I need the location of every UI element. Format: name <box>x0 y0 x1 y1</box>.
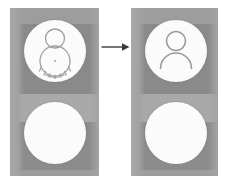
blank-disc[interactable] <box>24 102 86 164</box>
person-avatar-icon[interactable] <box>145 20 207 82</box>
glitched-avatar-icon[interactable] <box>24 20 86 82</box>
panel-right-edge-strip <box>208 8 218 176</box>
figure-stage <box>0 0 228 186</box>
before-panel <box>10 8 99 176</box>
right-arrow-icon <box>101 40 130 54</box>
glitched-avatar-glyph <box>24 20 86 82</box>
blank-disc[interactable] <box>145 102 207 164</box>
person-avatar-glyph <box>145 20 207 82</box>
after-panel <box>131 8 218 176</box>
panel-right-edge-strip <box>89 8 99 176</box>
panel-left-edge-strip <box>131 8 145 176</box>
panel-left-edge-strip <box>10 8 24 176</box>
